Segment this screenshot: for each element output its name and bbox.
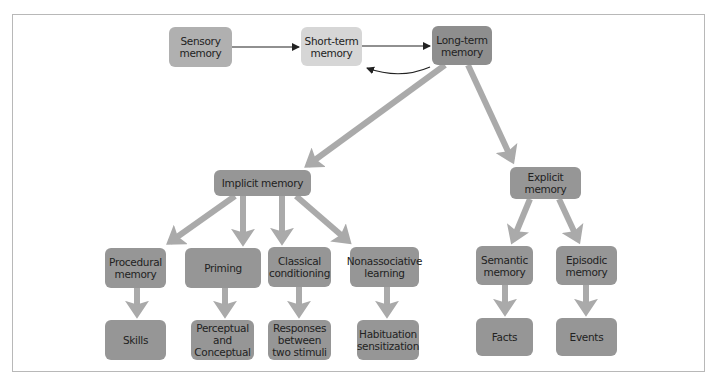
arrow-implicit-to-nonassociative — [296, 196, 348, 241]
node-facts: Facts — [476, 318, 533, 356]
arrow-explicit-to-semantic — [513, 199, 530, 240]
arrow-long-to-implicit — [308, 65, 445, 165]
node-sensory-memory: Sensory memory — [169, 27, 232, 67]
node-nonassociative-learning: Nonassociative learning — [350, 247, 419, 287]
node-classical-conditioning: Classical conditioning — [268, 247, 331, 287]
arrow-long-to-explicit — [468, 65, 512, 160]
node-procedural-memory: Procedural memory — [105, 248, 166, 288]
node-long-term-memory: Long-term memory — [432, 26, 492, 65]
node-responses-between-stimuli: Responses between two stimuli — [268, 320, 331, 360]
node-events: Events — [556, 318, 617, 356]
node-short-term-memory: Short-term memory — [301, 27, 362, 66]
arrow-long-to-short-term — [367, 67, 430, 74]
node-skills: Skills — [105, 320, 166, 360]
node-implicit-memory: Implicit memory — [214, 170, 311, 196]
node-priming: Priming — [185, 248, 261, 288]
node-episodic-memory: Episodic memory — [556, 246, 617, 285]
node-explicit-memory: Explicit memory — [510, 167, 581, 199]
arrow-explicit-to-episodic — [559, 199, 578, 240]
node-habituation-sensitization: Habituation sensitization — [357, 320, 419, 360]
node-perceptual-conceptual: Perceptual and Conceptual — [191, 320, 254, 360]
arrow-implicit-to-procedural — [170, 196, 235, 242]
node-semantic-memory: Semantic memory — [476, 246, 533, 285]
